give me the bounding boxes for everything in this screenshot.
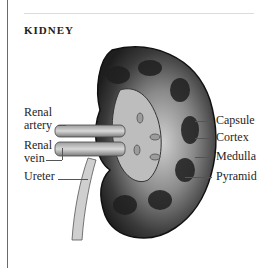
leader-cortex bbox=[195, 138, 212, 139]
label-ureter: Ureter bbox=[24, 170, 55, 183]
leader-renal-vein bbox=[46, 160, 62, 161]
label-renal-artery: Renal artery bbox=[24, 106, 52, 132]
leader-capsule bbox=[195, 121, 212, 122]
leader-renal-vein-vertical bbox=[62, 148, 63, 160]
renal-artery-vessel bbox=[55, 125, 125, 137]
label-pyramid: Pyramid bbox=[216, 170, 257, 183]
leader-renal-artery bbox=[58, 125, 66, 126]
leader-medulla bbox=[195, 157, 212, 158]
label-medulla: Medulla bbox=[216, 150, 256, 163]
label-line: vein bbox=[24, 152, 52, 165]
label-capsule: Capsule bbox=[216, 114, 255, 127]
label-cortex: Cortex bbox=[216, 131, 249, 144]
leader-ureter bbox=[58, 179, 88, 180]
label-renal-vein: Renal vein bbox=[24, 139, 52, 165]
label-line: artery bbox=[24, 119, 52, 132]
renal-vein-vessel bbox=[55, 142, 125, 156]
leader-pyramid bbox=[185, 177, 212, 178]
ureter-tube bbox=[72, 158, 96, 240]
label-line: Ureter bbox=[24, 170, 55, 183]
